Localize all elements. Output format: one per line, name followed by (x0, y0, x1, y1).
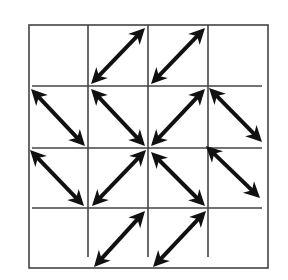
double-arrow-icon-r1-c3 (209, 88, 262, 142)
double-arrow-icon-r2-c2 (151, 152, 205, 206)
arrow-grid-diagram (0, 0, 288, 280)
double-arrow-icon-r1-c0 (31, 89, 85, 146)
double-arrow-icon-r2-c0 (30, 150, 84, 206)
double-arrow-icon-r1-c1 (91, 89, 145, 146)
double-arrow-icon-r3-c2 (153, 211, 206, 267)
double-arrow-icon-r2-c1 (92, 150, 146, 206)
double-arrow-icon-r0-c1 (91, 28, 145, 84)
double-arrow-icon-r2-c3 (206, 146, 260, 198)
double-arrow-icon-r1-c2 (151, 89, 205, 146)
grid (29, 25, 268, 268)
double-arrow-icon-r3-c1 (94, 211, 145, 267)
double-arrow-icon-r0-c2 (151, 28, 205, 84)
